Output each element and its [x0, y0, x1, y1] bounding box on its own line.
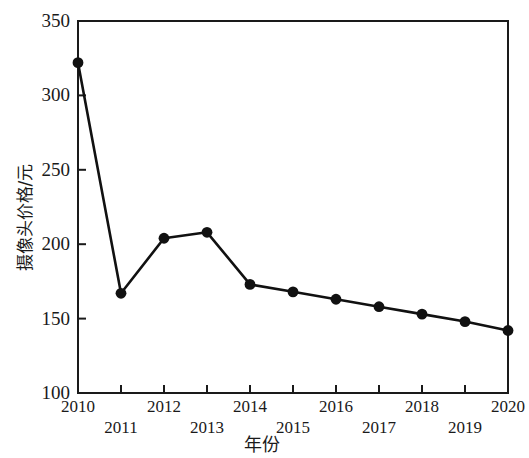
- x-axis-ticks: [78, 385, 508, 393]
- data-point: [417, 309, 428, 320]
- y-tick-label: 300: [18, 85, 70, 104]
- data-point: [460, 316, 471, 327]
- x-tick-label: 2018: [394, 398, 450, 415]
- y-axis-title: 摄像头价格/元: [11, 123, 36, 313]
- data-point: [202, 227, 213, 238]
- data-point: [245, 279, 256, 290]
- x-axis-title: 年份: [0, 430, 524, 456]
- y-axis-ticks: [78, 95, 86, 318]
- plot-frame: [78, 21, 508, 393]
- x-tick-label: 2010: [50, 398, 106, 415]
- x-tick-label: 2020: [480, 398, 529, 415]
- data-point: [116, 288, 127, 299]
- data-point: [288, 286, 299, 297]
- data-point: [159, 233, 170, 244]
- data-point-markers: [73, 57, 514, 336]
- data-point: [73, 57, 84, 68]
- x-tick-label: 2012: [136, 398, 192, 415]
- data-point: [331, 294, 342, 305]
- x-tick-label: 2014: [222, 398, 278, 415]
- data-point: [503, 325, 514, 336]
- data-point: [374, 301, 385, 312]
- x-tick-label: 2016: [308, 398, 364, 415]
- y-tick-label: 350: [18, 11, 70, 30]
